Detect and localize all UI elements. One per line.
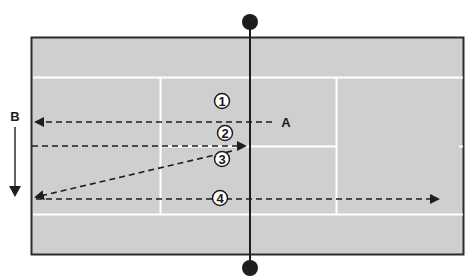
step-number-4: 4 (216, 191, 224, 206)
net-post-bottom (242, 260, 258, 276)
step-marker-1: 1 (215, 94, 230, 109)
net-post-top (242, 14, 258, 30)
step-marker-3: 3 (215, 152, 230, 167)
step-marker-4: 4 (213, 191, 228, 206)
step-number-3: 3 (218, 152, 225, 167)
player-b-movement-arrowhead (9, 186, 21, 197)
step-marker-2: 2 (218, 126, 233, 141)
player-b-label: B (10, 109, 19, 124)
step-number-2: 2 (221, 126, 228, 141)
step-number-1: 1 (218, 94, 225, 109)
tennis-court-diagram: 1 2 3 4 A B (0, 0, 475, 280)
player-a-label: A (281, 115, 291, 130)
court-svg: 1 2 3 4 A B (0, 0, 475, 280)
